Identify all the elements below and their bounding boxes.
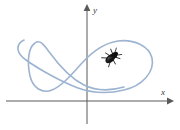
x-axis-label: x (160, 87, 165, 97)
y-axis-label: y (92, 5, 97, 15)
curve-group (18, 40, 153, 92)
y-axis-arrow-icon (84, 4, 91, 11)
figure-canvas: x y (0, 0, 180, 130)
beetle-icon (100, 46, 123, 69)
parametric-curve (18, 40, 153, 92)
figure-svg: x y (0, 0, 180, 130)
x-axis-arrow-icon (167, 98, 174, 105)
